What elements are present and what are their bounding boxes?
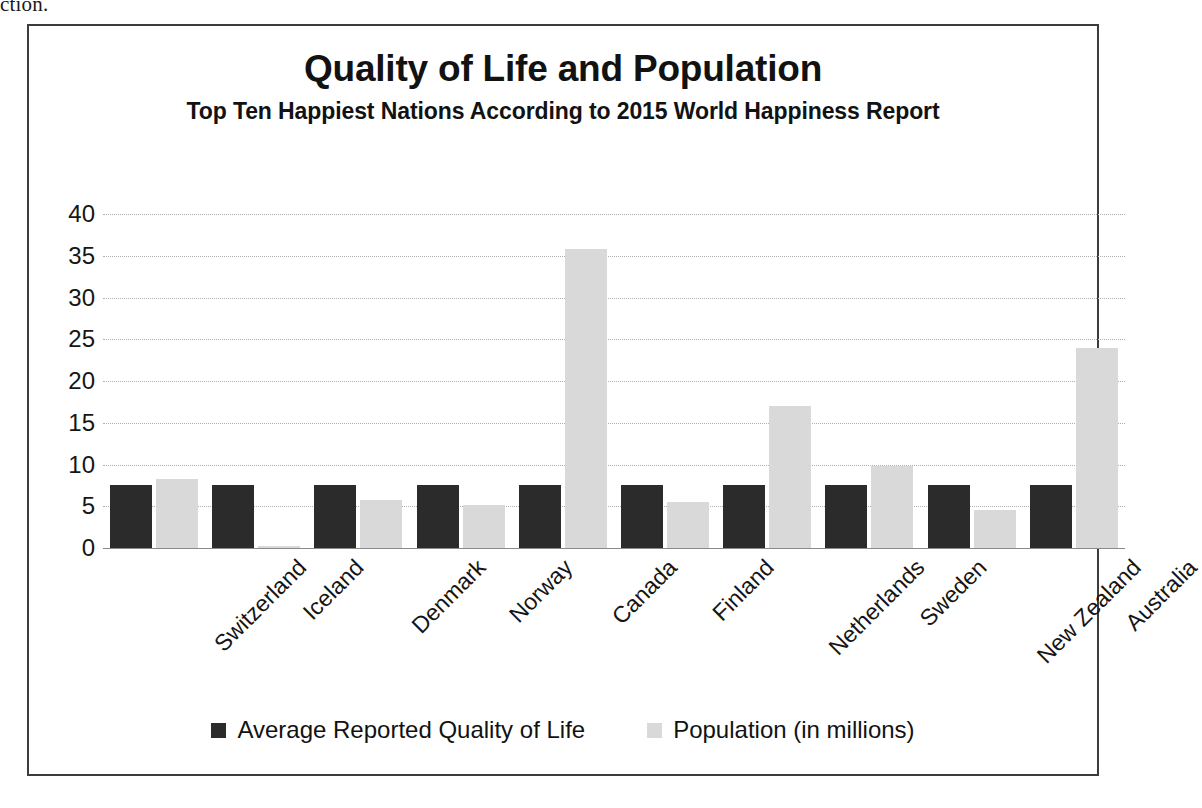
- bar-group: [512, 214, 614, 548]
- y-axis-tick-label: 40: [68, 200, 95, 228]
- x-axis-tick-label: Netherlands: [824, 554, 931, 661]
- bar: [463, 505, 505, 548]
- bar: [667, 502, 709, 548]
- bar-group: [818, 214, 920, 548]
- y-axis-tick-label: 15: [68, 409, 95, 437]
- legend-item[interactable]: Population (in millions): [647, 716, 914, 744]
- bar-group: [205, 214, 307, 548]
- bar: [723, 485, 765, 548]
- x-axis-tick-label: Finland: [707, 554, 779, 626]
- y-axis-tick-label: 10: [68, 451, 95, 479]
- chart-title: Quality of Life and Population: [29, 48, 1097, 89]
- y-axis-tick-label: 20: [68, 367, 95, 395]
- x-axis-tick-label: Norway: [504, 554, 578, 628]
- y-axis-tick-label: 25: [68, 325, 95, 353]
- bar: [110, 485, 152, 548]
- chart-title-block: Quality of Life and Population Top Ten H…: [29, 48, 1097, 127]
- legend-item[interactable]: Average Reported Quality of Life: [211, 716, 585, 744]
- y-axis-labels: 4035302520151050: [43, 214, 95, 548]
- y-axis-tick-label: 5: [82, 492, 95, 520]
- bar-group: [1023, 214, 1125, 548]
- bar: [519, 485, 561, 548]
- plot-area: [103, 214, 1125, 548]
- bar-group: [103, 214, 205, 548]
- y-axis-tick-label: 35: [68, 242, 95, 270]
- y-axis-tick-label: 30: [68, 284, 95, 312]
- bar: [769, 406, 811, 548]
- x-axis-labels: SwitzerlandIcelandDenmarkNorwayCanadaFin…: [103, 548, 1125, 678]
- chart-frame: Quality of Life and Population Top Ten H…: [27, 24, 1099, 776]
- legend-swatch-icon: [211, 723, 226, 738]
- legend-label: Average Reported Quality of Life: [237, 716, 585, 744]
- bar: [1030, 485, 1072, 548]
- bar: [825, 485, 867, 548]
- bar: [156, 479, 198, 548]
- bar: [360, 500, 402, 548]
- bar: [314, 485, 356, 548]
- bar-group: [921, 214, 1023, 548]
- x-axis-tick-label: Sweden: [914, 554, 992, 632]
- bar: [212, 485, 254, 548]
- x-axis-tick-label: Switzerland: [209, 554, 312, 657]
- cut-off-page-text: ction.: [0, 0, 48, 17]
- y-axis-tick-label: 0: [82, 534, 95, 562]
- x-axis-tick-label: Iceland: [298, 554, 370, 626]
- bars-layer: [103, 214, 1125, 548]
- bar: [565, 249, 607, 548]
- bar-group: [716, 214, 818, 548]
- bar-group: [614, 214, 716, 548]
- chart-subtitle: Top Ten Happiest Nations According to 20…: [143, 96, 983, 126]
- x-axis-tick-label: Denmark: [406, 554, 491, 639]
- chart-legend: Average Reported Quality of LifePopulati…: [29, 716, 1097, 744]
- bar: [871, 466, 913, 548]
- bar: [928, 485, 970, 548]
- bar-group: [410, 214, 512, 548]
- bar: [974, 510, 1016, 548]
- legend-swatch-icon: [647, 723, 662, 738]
- legend-label: Population (in millions): [673, 716, 914, 744]
- x-axis-tick-label: Canada: [606, 554, 682, 630]
- bar: [621, 485, 663, 548]
- bar: [1076, 348, 1118, 548]
- bar: [417, 485, 459, 548]
- bar-group: [307, 214, 409, 548]
